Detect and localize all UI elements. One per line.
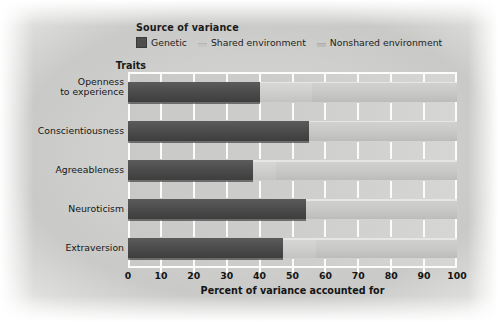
bar-row (128, 160, 457, 180)
bar-segment-genetic (128, 82, 260, 102)
x-tick-label: 90 (418, 270, 431, 281)
bar-segment-genetic (128, 199, 306, 219)
grid-tick (292, 142, 294, 159)
grid-tick (423, 220, 425, 237)
legend-entry-shared: Shared environment (198, 37, 306, 48)
grid-tick (423, 142, 425, 159)
grid-tick (390, 181, 392, 198)
x-tick-label: 100 (447, 270, 466, 281)
legend-label-shared: Shared environment (211, 37, 306, 48)
legend-entry-nonshared: Nonshared environment (317, 37, 442, 48)
plot-area (128, 72, 457, 268)
bar-segment-nonshared (312, 82, 457, 102)
grid-tick (292, 220, 294, 237)
grid-tick (193, 103, 195, 120)
x-axis-title: Percent of variance accounted for (128, 285, 457, 296)
grid-tick (292, 103, 294, 120)
traits-heading: Traits (62, 60, 146, 71)
genetic-swatch-icon (136, 37, 147, 48)
y-axis-labels: Opennessto experienceConscientiousnessAg… (4, 72, 124, 268)
nonshared-swatch-icon (317, 43, 326, 47)
figure-panel: Source of variance Genetic Shared enviro… (0, 0, 498, 322)
x-tick-label: 0 (125, 270, 131, 281)
grid-tick (259, 181, 261, 198)
x-tick-label: 70 (352, 270, 365, 281)
y-axis-label: Agreeableness (6, 165, 124, 176)
bar-segment-nonshared (316, 238, 457, 258)
grid-tick (357, 220, 359, 237)
grid-tick (226, 103, 228, 120)
y-axis-label: Extraversion (6, 243, 124, 254)
bar-segment-shared (260, 82, 313, 102)
grid-tick (357, 103, 359, 120)
grid-tick (160, 142, 162, 159)
legend-label-nonshared: Nonshared environment (330, 37, 442, 48)
legend-items: Genetic Shared environment Nonshared env… (136, 37, 466, 48)
bar-segment-shared (283, 238, 316, 258)
bar-segment-genetic (128, 121, 309, 141)
x-tick-label: 50 (286, 270, 299, 281)
grid-tick (226, 181, 228, 198)
y-axis-label: Opennessto experience (6, 77, 124, 98)
grid-tick (357, 142, 359, 159)
grid-tick (423, 181, 425, 198)
shared-swatch-icon (198, 43, 207, 47)
grid-tick (259, 220, 261, 237)
x-axis-ticks: 0102030405060708090100 (128, 270, 457, 284)
bar-row (128, 82, 457, 102)
grid-tick (324, 220, 326, 237)
grid-tick (390, 142, 392, 159)
bar-row (128, 199, 457, 219)
grid-tick (160, 103, 162, 120)
bar-segment-genetic (128, 238, 283, 258)
grid-tick (259, 142, 261, 159)
grid-tick (324, 181, 326, 198)
legend: Source of variance Genetic Shared enviro… (136, 22, 466, 48)
x-tick-label: 60 (319, 270, 332, 281)
legend-title: Source of variance (136, 22, 466, 33)
grid-tick (390, 220, 392, 237)
grid-tick (423, 103, 425, 120)
grid-tick (193, 181, 195, 198)
grid-tick (324, 142, 326, 159)
y-axis-label: Conscientiousness (6, 126, 124, 137)
grid-tick (193, 142, 195, 159)
grid-tick (357, 181, 359, 198)
bar-row (128, 238, 457, 258)
grid-tick (390, 103, 392, 120)
legend-label-genetic: Genetic (151, 37, 187, 48)
y-axis-label: Neuroticism (6, 204, 124, 215)
grid-tick (193, 220, 195, 237)
x-tick-label: 20 (187, 270, 200, 281)
bar-segment-nonshared (306, 199, 457, 219)
grid-tick (226, 142, 228, 159)
x-tick-label: 30 (220, 270, 233, 281)
bar-segment-shared (253, 160, 276, 180)
bar-segment-nonshared (276, 160, 457, 180)
grid-tick (324, 103, 326, 120)
grid-tick (259, 103, 261, 120)
grid-tick (292, 181, 294, 198)
x-tick-label: 10 (154, 270, 167, 281)
bar-segment-nonshared (309, 121, 457, 141)
bar-row (128, 121, 457, 141)
legend-entry-genetic: Genetic (136, 37, 187, 48)
x-tick-label: 80 (385, 270, 398, 281)
bar-segment-genetic (128, 160, 253, 180)
grid-tick (226, 220, 228, 237)
x-tick-label: 40 (253, 270, 266, 281)
grid-tick (160, 181, 162, 198)
grid-tick (160, 220, 162, 237)
